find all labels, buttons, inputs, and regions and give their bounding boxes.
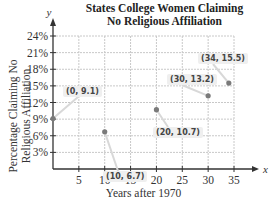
data-point xyxy=(102,129,107,134)
y-tick-label: 21% xyxy=(27,47,49,59)
x-tick-label: 20 xyxy=(151,174,163,186)
data-point-label: (30, 13.2) xyxy=(167,74,217,85)
data-point-label: (34, 15.5) xyxy=(198,53,248,64)
data-point xyxy=(226,81,231,86)
y-axis-arrow-icon xyxy=(50,18,56,26)
data-point xyxy=(206,93,211,98)
x-tick-label: 5 xyxy=(76,174,82,186)
y-tick-label: 3% xyxy=(33,146,49,158)
data-point xyxy=(154,107,159,112)
y-tick-label: 9% xyxy=(33,113,49,125)
y-tick-label: 15% xyxy=(27,80,49,92)
data-point-label: (20, 10.7) xyxy=(153,127,203,138)
x-tick-label: 35 xyxy=(228,174,240,186)
data-point-label: (10, 6.7) xyxy=(103,171,147,182)
data-point xyxy=(50,116,55,121)
y-tick-label: 6% xyxy=(33,130,49,142)
y-axis-letter: y xyxy=(46,6,52,18)
x-axis-label: Years after 1970 xyxy=(53,187,234,199)
callout-leader xyxy=(156,110,168,127)
callout-leader xyxy=(105,132,118,171)
x-axis-arrow-icon xyxy=(252,166,259,172)
x-tick-label: 30 xyxy=(202,174,214,186)
y-tick-label: 18% xyxy=(27,63,49,75)
x-tick-label: 25 xyxy=(177,174,189,186)
x-axis-letter: x xyxy=(262,163,268,175)
y-tick-label: 24% xyxy=(27,30,49,42)
callout-leader xyxy=(182,85,208,96)
y-tick-label: 12% xyxy=(27,97,49,109)
data-point-label: (0, 9.1) xyxy=(63,86,102,97)
callout-leader xyxy=(53,97,78,119)
